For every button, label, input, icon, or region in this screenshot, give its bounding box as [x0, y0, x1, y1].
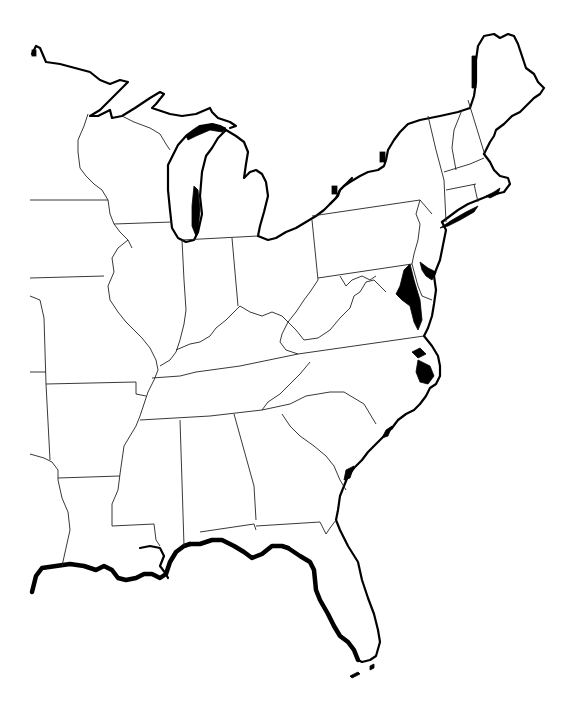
isle-royale-mark — [32, 50, 36, 56]
mo-west-border — [44, 318, 50, 460]
il-west-border — [108, 240, 158, 370]
pa-md-border — [318, 264, 412, 278]
ga-fl-border — [256, 520, 336, 534]
va-nc-tn-border — [298, 336, 424, 354]
florida-panhandle-coastline — [190, 540, 288, 558]
ky-tn-border — [152, 354, 298, 378]
thousand-islands-mark — [380, 152, 385, 162]
wv-va-border — [288, 280, 386, 340]
ar-east-border — [120, 370, 158, 474]
sc-ga-border — [282, 414, 346, 490]
nj-coastline — [434, 222, 446, 276]
ks-line — [30, 296, 44, 318]
ct-ri-border — [474, 184, 478, 202]
in-mi-border — [182, 236, 258, 240]
maine-west-shade — [472, 56, 476, 88]
ma-north-border — [444, 158, 484, 172]
chesapeake-bay-shade — [396, 264, 422, 330]
lake-superior-shoreline — [32, 46, 236, 128]
in-ky-border — [176, 306, 288, 350]
in-oh-border — [232, 238, 238, 306]
mo-north-border — [30, 276, 104, 278]
lake-erie-shoreline — [258, 178, 352, 240]
gulf-coastline-west — [32, 544, 190, 592]
maine-coastline — [470, 34, 544, 154]
straits-of-mackinac-shade — [186, 124, 226, 140]
ma-south-border — [446, 184, 476, 190]
ky-va-border — [280, 322, 298, 354]
la-tx-border — [58, 480, 70, 566]
pa-ny-border — [312, 200, 432, 216]
cape-cod-shade — [486, 188, 500, 198]
niagara-mark — [332, 186, 337, 194]
albemarle-sound-shade — [412, 348, 426, 358]
wi-il-border — [114, 222, 172, 224]
florida-keys-mark — [350, 672, 360, 678]
ga-coast-shade — [344, 466, 354, 480]
vt-nh-border — [452, 110, 462, 170]
ms-al-border — [180, 420, 184, 546]
eastern-us-outline-map — [0, 0, 576, 719]
sc-coast-shade — [382, 426, 392, 438]
tn-south-border — [140, 410, 262, 420]
mo-ar-border — [46, 382, 146, 396]
al-fl-border — [200, 524, 256, 532]
pa-nj-border — [412, 200, 420, 264]
florida-keys-mark-2 — [370, 664, 374, 670]
al-ga-border — [234, 414, 256, 520]
wi-west-border — [78, 114, 132, 248]
florida-gulf-coastline — [288, 548, 358, 660]
nc-sc-border — [262, 392, 376, 424]
carolina-georgia-coastline — [336, 428, 392, 520]
ny-vt-border — [428, 116, 446, 222]
ar-la-border — [58, 476, 120, 478]
tx-red-river — [30, 454, 58, 480]
wi-mi-up-border — [122, 116, 170, 150]
nh-me-border — [468, 100, 484, 152]
oh-pa-border — [312, 220, 318, 280]
tn-nc-border — [262, 362, 310, 410]
lake-huron-shoreline — [226, 130, 268, 236]
pamlico-sound-shade — [416, 360, 434, 384]
delmarva-coastline — [424, 276, 436, 336]
ms-la-border — [112, 474, 160, 546]
oh-wv-border — [288, 280, 318, 322]
